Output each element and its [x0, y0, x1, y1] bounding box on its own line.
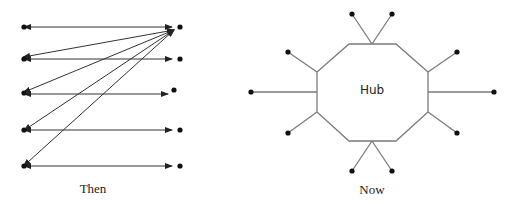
node-bottom-left — [349, 168, 354, 173]
spoke-upper-right — [428, 52, 457, 72]
then-nodes — [21, 24, 182, 168]
diagram-canvas: Then Hub Now — [0, 0, 512, 205]
node-bottom-right — [389, 168, 394, 173]
now-caption: Now — [359, 182, 385, 197]
node-top-left — [349, 11, 354, 16]
then-caption: Then — [80, 181, 107, 196]
node-lower-right — [454, 130, 459, 135]
node-right — [491, 89, 496, 94]
link-3-1 — [29, 30, 174, 90]
spoke-upper-left — [288, 52, 317, 72]
node-left-1 — [21, 24, 26, 29]
node-upper-left — [285, 49, 290, 54]
node-upper-right — [454, 49, 459, 54]
node-lower-left — [285, 130, 290, 135]
node-right-5 — [177, 163, 182, 168]
spoke-bottom-left — [352, 141, 372, 171]
diagonal-links — [28, 30, 174, 162]
link-4-1 — [29, 30, 174, 127]
spoke-lower-left — [288, 112, 317, 133]
node-top-right — [389, 11, 394, 16]
now-diagram: Hub Now — [248, 11, 496, 197]
spoke-top-left — [352, 14, 372, 44]
node-right-1 — [177, 24, 182, 29]
spoke-lower-right — [428, 112, 457, 133]
node-right-2 — [177, 56, 182, 61]
link-5-1 — [28, 30, 174, 162]
node-left-2 — [21, 56, 26, 61]
node-left — [248, 89, 253, 94]
spoke-top-right — [372, 14, 392, 44]
hub-label: Hub — [360, 83, 384, 97]
link-2-1 — [29, 30, 174, 56]
node-right-4 — [177, 127, 182, 132]
node-left-4 — [21, 127, 26, 132]
spoke-bottom-right — [372, 141, 392, 171]
node-left-5 — [21, 163, 26, 168]
node-left-3 — [21, 90, 26, 95]
node-right-3 — [171, 87, 176, 92]
then-diagram: Then — [21, 24, 182, 196]
